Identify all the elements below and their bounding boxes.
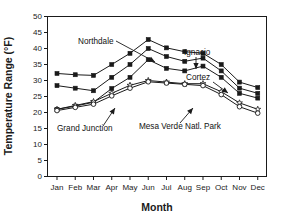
x-tick-label: Apr [106,183,119,192]
series-annotation-ignacio: Ignacio [184,48,211,57]
data-point [219,69,223,73]
data-point [146,38,150,42]
data-point [73,86,77,90]
data-point [237,86,241,90]
x-tick-label: Feb [68,183,82,192]
data-point [201,64,205,68]
x-axis-ticks: JanFebMarAprMayJunJulAugSepOctNovDec [51,177,265,192]
data-point [256,86,260,90]
data-point [109,94,114,99]
x-tick-label: Sep [196,183,211,192]
x-tick-label: Oct [215,183,228,192]
data-point [256,91,260,95]
x-tick-label: Aug [178,183,192,192]
y-tick-label: 20 [33,108,42,117]
x-tick-label: Nov [232,183,246,192]
data-point [128,86,133,91]
y-tick-label: 10 [33,140,42,149]
data-point [237,80,241,84]
y-tick-label: 50 [33,12,42,21]
series-annotation-mesa-verde: Mesa Verde Natl. Park [139,122,222,131]
temperature-range-line-chart: 05101520253035404550 JanFebMarAprMayJunJ… [0,0,284,217]
data-point [91,89,95,93]
data-point [91,102,96,107]
series-annotation-northdale: Northdale [78,37,114,46]
x-tick-label: Jun [142,183,155,192]
data-point [183,59,187,63]
data-point [146,47,150,51]
data-point [55,71,59,75]
data-point [219,63,223,67]
data-point [73,105,78,110]
data-point [256,96,260,100]
data-point [255,111,260,116]
x-axis-title: Month [141,201,173,213]
y-tick-label: 35 [33,60,42,69]
data-point [73,73,77,77]
data-point [219,92,224,97]
y-tick-label: 40 [33,44,42,53]
x-tick-label: Mar [87,183,101,192]
data-point [91,73,95,77]
data-point [110,63,114,67]
data-point [164,81,169,86]
data-point [146,79,151,84]
data-point [164,46,168,50]
x-tick-label: May [122,183,137,192]
leader-mesa-verde [180,108,193,123]
y-axis-title: Temperature Range (°F) [2,37,14,155]
series-annotation-grand-junction: Grand Junction [57,124,113,133]
series-layer [54,38,261,116]
series-ignacio [55,47,260,96]
x-tick-label: Dec [251,183,265,192]
y-axis-ticks: 05101520253035404550 [33,12,47,181]
data-point [182,82,187,87]
x-tick-label: Jul [161,183,171,192]
data-point [55,108,60,113]
y-tick-label: 5 [38,156,43,165]
data-point [128,75,132,79]
data-point [219,75,223,79]
data-point [110,75,114,79]
data-point [128,63,132,67]
data-point [164,66,168,70]
y-tick-label: 25 [33,92,42,101]
y-tick-label: 45 [33,28,42,37]
chart-container: 05101520253035404550 JanFebMarAprMayJunJ… [0,0,284,217]
x-tick-label: Jan [51,183,64,192]
data-point [164,55,168,59]
data-point [55,84,59,88]
y-tick-label: 0 [38,172,43,181]
y-tick-label: 30 [33,76,42,85]
data-point [237,91,241,95]
data-point [128,51,132,55]
data-point [237,104,242,109]
data-point [201,83,206,88]
y-tick-label: 15 [33,124,42,133]
series-annotation-cortez: Cortez [186,73,210,82]
